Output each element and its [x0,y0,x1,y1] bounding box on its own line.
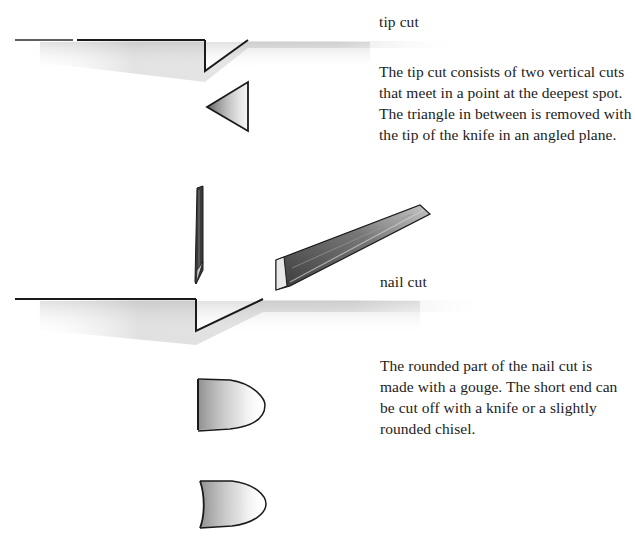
description-line: the tip of the knife in an angled plane. [379,124,636,145]
nail-shape-concave-end-illustration [200,481,266,528]
description-line: made with a gouge. The short end can [380,376,636,397]
nail-shape-straight-end-illustration [198,379,265,431]
description-line: rounded chisel. [380,418,636,439]
triangle-chip-illustration [207,82,248,131]
vertical-knife-blade-illustration [195,186,203,284]
description-line: The triangle in between is removed with [379,103,636,124]
nail-cut-heading: nail cut [380,273,427,291]
description-line: that meet in a point at the deepest spot… [379,82,636,103]
description-line: The rounded part of the nail cut is [380,355,636,376]
nail-cut-description: The rounded part of the nail cut is made… [380,355,636,439]
nail-cut-wood-profile [15,299,495,345]
description-line: The tip cut consists of two vertical cut… [379,61,636,82]
description-line: be cut off with a knife or a slightly [380,397,636,418]
tip-cut-description: The tip cut consists of two vertical cut… [379,61,636,145]
tip-cut-heading: tip cut [379,13,419,31]
